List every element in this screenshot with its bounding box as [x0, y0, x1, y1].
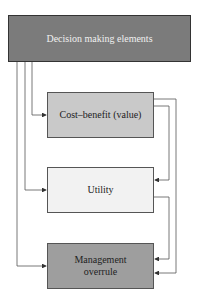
decision-making-elements-box: Decision making elements [8, 15, 191, 62]
top-box-label: Decision making elements [46, 33, 152, 45]
utility-label: Utility [87, 184, 113, 196]
management-overrule-box: Management overrule [47, 243, 154, 289]
cost-benefit-label: Cost–benefit (value) [60, 109, 142, 121]
management-overrule-label: Management overrule [66, 254, 136, 278]
cost-benefit-box: Cost–benefit (value) [47, 92, 154, 138]
utility-box: Utility [47, 167, 154, 213]
